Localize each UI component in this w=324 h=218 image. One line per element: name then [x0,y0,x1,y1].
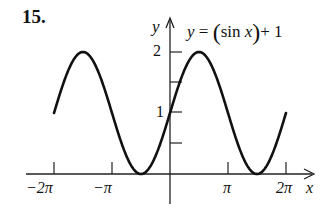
x-tick-label-pi: π [223,180,231,196]
y-tick-label-1: 1 [156,104,164,120]
y-tick-label-2: 2 [153,43,161,59]
x-axis-label: x [306,180,313,196]
problem-number: 15. [22,6,46,28]
equation-label: y = (sin x)+ 1 [187,20,283,44]
x-tick-label-neg-pi: −π [93,180,112,196]
y-axis-label: y [152,18,160,35]
x-tick-label-2pi: 2π [276,180,292,196]
x-tick-label-neg-2pi: −2π [26,180,53,196]
